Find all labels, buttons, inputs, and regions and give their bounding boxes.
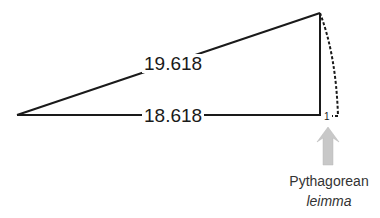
leg-label: 1: [324, 112, 330, 122]
caption-line2: leimma: [279, 191, 379, 211]
dashed-arc: [320, 13, 338, 116]
caption-line1: Pythagorean: [279, 171, 379, 191]
up-arrow-icon: [317, 127, 339, 165]
base-label: 18.618: [142, 106, 204, 125]
hypotenuse-label: 19.618: [142, 54, 204, 73]
caption: Pythagorean leimma: [279, 171, 379, 211]
